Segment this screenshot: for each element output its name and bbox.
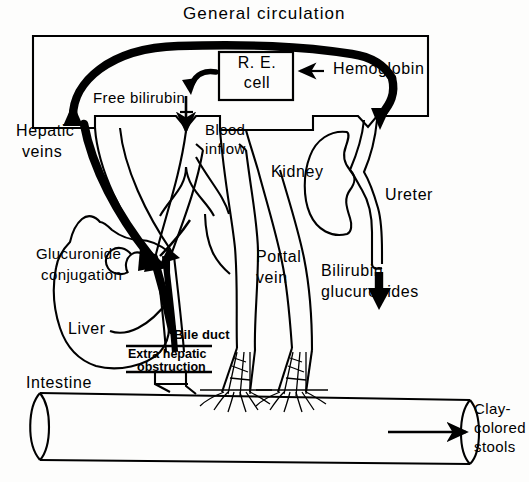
- ureter-label: Ureter: [385, 186, 433, 204]
- portal-vein-label-line2: vein: [256, 269, 288, 287]
- bilirubin-metabolism-diagram: General circulation R. E. cell Hemoglobi…: [0, 0, 529, 482]
- blood-inflow-label-line2: inflow: [205, 141, 246, 158]
- free-bilirubin-to-circulation-arrow: [63, 45, 392, 126]
- glucuronide-conjugation-label-line2: conjugation: [41, 267, 122, 284]
- clay-colored-stools-label-line3: stools: [474, 439, 516, 456]
- portal-vein-label-line1: Portal: [256, 248, 301, 266]
- re-cell-label-line1: R. E.: [230, 54, 284, 72]
- bile-duct-label: Bile duct: [174, 328, 230, 343]
- duct-to-intestine-connectors: [155, 372, 196, 394]
- hemoglobin-to-kidney-arrow: [371, 78, 393, 130]
- ureter-vessel: [350, 120, 382, 269]
- intestine-tube: [30, 393, 479, 464]
- free-bilirubin-label: Free bilirubin: [93, 90, 185, 107]
- extra-hepatic-obstruction-label-line2: obstruction: [137, 360, 206, 374]
- liver-label: Liver: [68, 320, 106, 338]
- portal-vein-vessel: [205, 130, 258, 350]
- re-cell-to-free-bilirubin-arrow: [182, 72, 216, 96]
- hemoglobin-label: Hemoglobin: [333, 60, 424, 78]
- extra-hepatic-obstruction-label-line1: Extra hepatic: [128, 347, 207, 361]
- clay-colored-stools-label-line1: Clay-: [474, 401, 511, 418]
- clay-colored-stools-label-line2: colored: [474, 420, 526, 437]
- bilirubin-glucuronides-label-line2: glucuronides: [321, 283, 419, 301]
- page-title: General circulation: [183, 4, 346, 23]
- hepatic-veins-label-line2: veins: [22, 143, 62, 161]
- blood-inflow-label-line1: Blood: [205, 122, 245, 139]
- bilirubin-glucuronides-label-line1: Bilirubin: [321, 262, 383, 280]
- kidney-label: Kidney: [271, 163, 324, 181]
- diagram-canvas: [0, 0, 529, 482]
- intestine-label: Intestine: [26, 374, 92, 392]
- hepatic-veins-label-line1: Hepatic: [16, 122, 74, 140]
- re-cell-label-line2: cell: [230, 74, 284, 92]
- kidney-outline: [305, 132, 355, 235]
- glucuronide-conjugation-label-line1: Glucuronide: [36, 246, 121, 263]
